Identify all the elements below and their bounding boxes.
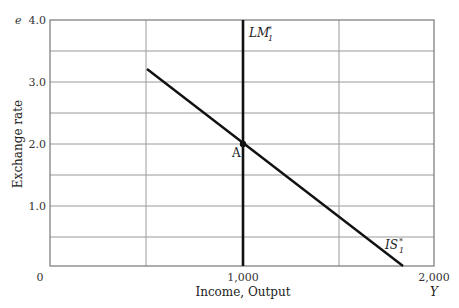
y-axis-title: Exchange rate	[11, 100, 25, 188]
is-curve	[147, 69, 403, 266]
y-tick-2: 2.0	[29, 138, 47, 151]
is-curve-label: IS	[384, 238, 398, 252]
origin-label: 0	[37, 271, 44, 284]
lm-curve-label-sub: 1	[268, 34, 273, 43]
y-var-label: e	[15, 14, 22, 27]
equilibrium-point-a	[240, 141, 246, 147]
is-lm-chart: e 4.0 3.0 2.0 1.0 0 Exchange rate 1,000 …	[0, 0, 459, 308]
x-var-label: Y	[430, 285, 439, 299]
x-tick-2000: 2,000	[418, 271, 450, 284]
y-tick-3: 3.0	[29, 76, 47, 89]
lm-curve-label: LM	[248, 26, 270, 40]
x-axis-title: Income, Output	[195, 285, 290, 299]
y-tick-4: 4.0	[29, 14, 47, 27]
is-curve-label-sub: 1	[399, 246, 404, 255]
is-curve-label-sup: *	[399, 237, 403, 246]
y-tick-1: 1.0	[29, 200, 47, 213]
point-a-label: A	[231, 146, 241, 160]
x-tick-1000: 1,000	[227, 271, 259, 284]
lm-curve-label-sup: *	[268, 25, 272, 34]
